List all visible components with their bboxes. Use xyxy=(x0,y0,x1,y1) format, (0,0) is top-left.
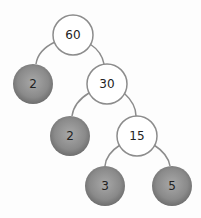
node-label-3: 3 xyxy=(101,179,109,193)
edge-60-30 xyxy=(90,44,104,64)
node-label-5: 5 xyxy=(168,179,176,193)
node-label-2-middle: 2 xyxy=(66,129,74,143)
node-label-2-left: 2 xyxy=(29,77,37,91)
edge-60-2 xyxy=(36,42,55,64)
factor-tree-svg: 60 2 30 2 15 3 5 xyxy=(0,0,201,218)
factor-tree-diagram: 60 2 30 2 15 3 5 xyxy=(0,0,201,218)
node-2-left: 2 xyxy=(13,64,53,104)
node-30: 30 xyxy=(87,64,127,104)
node-5: 5 xyxy=(152,166,192,206)
edge-15-5 xyxy=(154,145,170,166)
edge-30-2 xyxy=(72,93,89,116)
node-60: 60 xyxy=(53,15,93,55)
node-15: 15 xyxy=(117,116,157,156)
edge-30-15 xyxy=(124,93,136,116)
node-label-30: 30 xyxy=(99,77,114,91)
node-2-middle: 2 xyxy=(50,116,90,156)
edge-15-3 xyxy=(105,145,120,166)
node-3: 3 xyxy=(85,166,125,206)
node-label-15: 15 xyxy=(129,129,144,143)
node-label-60: 60 xyxy=(65,28,80,42)
